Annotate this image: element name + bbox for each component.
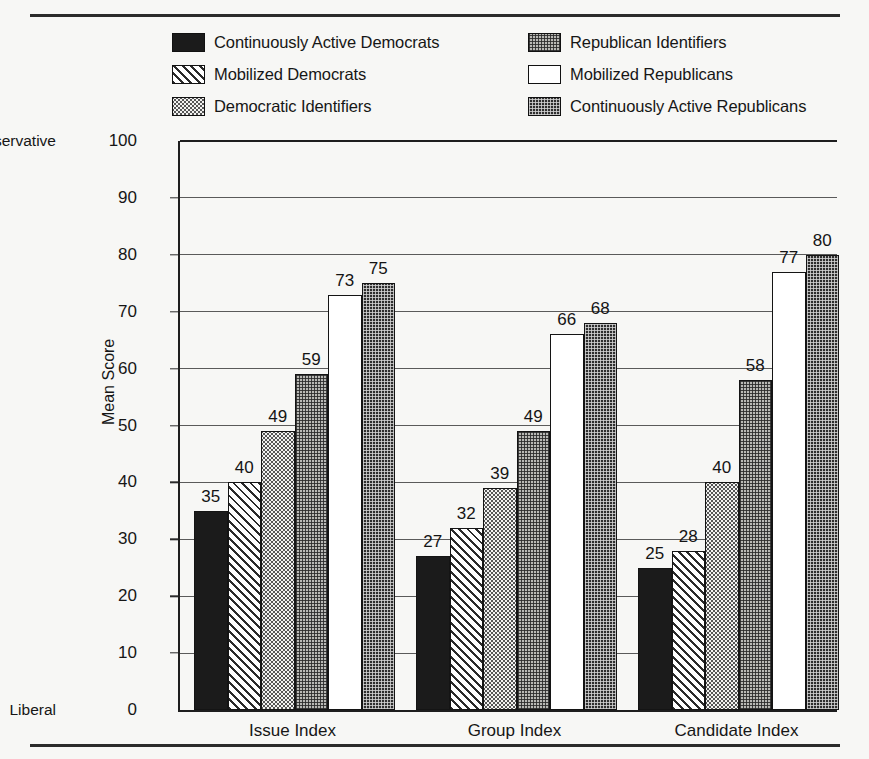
- y-tick-mark: [170, 311, 178, 312]
- legend-item: Mobilized Democrats: [172, 58, 439, 90]
- bar-value-label: 59: [302, 350, 321, 370]
- y-tick-mark: [170, 197, 178, 198]
- bar: [739, 380, 773, 710]
- legend-swatch-mid-check-icon: [528, 33, 561, 52]
- legend-column-left: Continuously Active DemocratsMobilized D…: [172, 26, 439, 122]
- bar: [450, 528, 484, 710]
- bar-value-label: 40: [712, 458, 731, 478]
- y-tick-mark: [170, 482, 178, 483]
- plot-area: 354049597375273239496668252840587780: [178, 141, 837, 712]
- bar-value-label: 66: [557, 310, 576, 330]
- bar-value-label: 39: [490, 464, 509, 484]
- bar: [672, 551, 706, 710]
- legend-column-right: Republican IdentifiersMobilized Republic…: [528, 26, 806, 122]
- bar: [362, 283, 396, 710]
- bar: [806, 255, 840, 710]
- legend-item-label: Democratic Identifiers: [214, 97, 371, 116]
- bar: [261, 431, 295, 710]
- bar-value-label: 68: [591, 299, 610, 319]
- bar-value-label: 49: [268, 407, 287, 427]
- x-category-label: Candidate Index: [675, 721, 799, 741]
- bar: [416, 556, 450, 710]
- page-rule-bottom: [30, 744, 840, 747]
- y-tick-label: 90: [77, 188, 137, 208]
- x-category-label: Group Index: [468, 721, 562, 741]
- gridline: [180, 140, 837, 142]
- bar: [328, 295, 362, 710]
- y-tick-label: 50: [77, 416, 137, 436]
- y-tick-label: 0: [77, 700, 137, 720]
- legend-item: Mobilized Republicans: [528, 58, 806, 90]
- y-tick-mark: [170, 425, 178, 426]
- gridline: [180, 254, 837, 255]
- y-axis-low-label: Liberal: [9, 701, 56, 719]
- gridline: [180, 197, 837, 198]
- x-category-label: Issue Index: [249, 721, 336, 741]
- y-tick-mark: [170, 595, 178, 596]
- legend-item: Continuously Active Democrats: [172, 26, 439, 58]
- y-tick-mark: [170, 254, 178, 255]
- y-axis-title: Mean Score: [100, 339, 118, 425]
- bar: [483, 488, 517, 710]
- y-axis-high-label: Conservative: [0, 132, 56, 150]
- y-tick-label: 40: [77, 472, 137, 492]
- y-tick-label: 20: [77, 586, 137, 606]
- bar-value-label: 58: [746, 356, 765, 376]
- bar: [638, 568, 672, 710]
- y-axis: Conservative Liberal Mean Score 01020304…: [0, 0, 178, 720]
- bar: [228, 482, 262, 710]
- bar-value-label: 32: [457, 504, 476, 524]
- legend-swatch-white-icon: [528, 65, 561, 84]
- legend-item-label: Mobilized Democrats: [214, 65, 366, 84]
- y-tick-mark: [170, 368, 178, 369]
- y-tick-mark: [170, 539, 178, 540]
- bar-value-label: 25: [645, 544, 664, 564]
- legend-swatch-dark-check-icon: [528, 97, 561, 116]
- legend-item: Republican Identifiers: [528, 26, 806, 58]
- plot-inner: 354049597375273239496668252840587780: [180, 141, 837, 710]
- bar: [550, 334, 584, 710]
- y-tick-label: 80: [77, 245, 137, 265]
- legend-item: Democratic Identifiers: [172, 90, 439, 122]
- bar: [295, 374, 329, 710]
- bar-value-label: 35: [201, 487, 220, 507]
- y-tick-label: 30: [77, 529, 137, 549]
- y-tick-label: 70: [77, 302, 137, 322]
- legend-item: Continuously Active Republicans: [528, 90, 806, 122]
- bar-value-label: 27: [423, 532, 442, 552]
- gridline: [180, 311, 837, 312]
- legend-item-label: Republican Identifiers: [570, 33, 726, 52]
- bar: [584, 323, 618, 710]
- bar-value-label: 80: [813, 231, 832, 251]
- bar-value-label: 73: [335, 271, 354, 291]
- y-tick-label: 10: [77, 643, 137, 663]
- gridline: [180, 368, 837, 369]
- bar-value-label: 28: [679, 527, 698, 547]
- bar-value-label: 77: [779, 248, 798, 268]
- bar: [772, 272, 806, 710]
- bar-value-label: 49: [524, 407, 543, 427]
- bar-value-label: 40: [235, 458, 254, 478]
- bar: [517, 431, 551, 710]
- bar-value-label: 75: [369, 259, 388, 279]
- legend-item-label: Mobilized Republicans: [570, 65, 733, 84]
- bar: [705, 482, 739, 710]
- legend-item-label: Continuously Active Democrats: [214, 33, 439, 52]
- y-tick-label: 100: [77, 131, 137, 151]
- bar: [194, 511, 228, 710]
- legend-item-label: Continuously Active Republicans: [570, 97, 806, 116]
- y-tick-label: 60: [77, 359, 137, 379]
- y-tick-mark: [170, 652, 178, 653]
